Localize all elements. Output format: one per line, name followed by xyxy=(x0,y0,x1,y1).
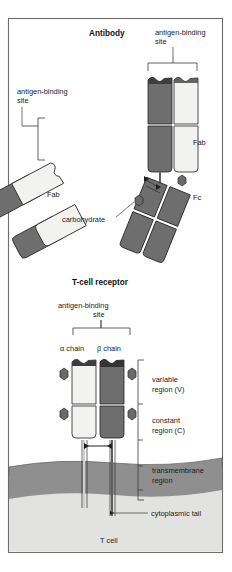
t-cell-label: T cell xyxy=(100,536,118,545)
antigen-binding-site-top-line1: antigen-binding xyxy=(155,28,206,37)
tcr-carbohydrate-beta-c xyxy=(128,408,136,420)
beta-constant-domain xyxy=(100,406,124,438)
antigen-binding-site-left-line2: site xyxy=(17,96,29,105)
tcr-beta-chain xyxy=(100,359,124,438)
constant-region-line1: constant xyxy=(152,416,180,425)
carbohydrate-label: carbohydrate xyxy=(62,215,105,224)
cytoplasmic-tail-label: cytoplasmic tail xyxy=(151,509,201,518)
fab-left-label: Fab xyxy=(47,190,60,199)
antigen-binding-site-left-line1: antigen-binding xyxy=(17,87,68,96)
variable-region-line2: region (V) xyxy=(152,385,184,394)
alpha-variable-domain xyxy=(72,359,96,404)
fab-right-heavy-variable-domain xyxy=(148,77,172,124)
tcr-carbohydrate-beta-v xyxy=(128,368,136,380)
tcr-carbohydrate-alpha-c xyxy=(60,408,68,420)
tcr-title: T-cell receptor xyxy=(72,278,129,287)
constant-region-line2: region (C) xyxy=(152,426,185,435)
figure-canvas: Antibody antigen-binding site Fab antige… xyxy=(0,0,232,572)
transmembrane-region-line2: region xyxy=(152,476,173,485)
alpha-constant-domain xyxy=(72,406,96,438)
fab-right-light-constant-domain xyxy=(174,126,198,172)
antigen-binding-site-tcr-line2: site xyxy=(93,310,105,319)
variable-region-line1: variable xyxy=(152,375,178,384)
fab-right-light-variable-domain xyxy=(174,77,198,124)
antibody-title-text: Antibody xyxy=(89,29,125,38)
beta-chain-label: β chain xyxy=(97,344,121,353)
fc-label: Fc xyxy=(193,193,202,202)
fab-right-label: Fab xyxy=(193,138,206,147)
fab-right-heavy-constant-domain xyxy=(148,126,172,172)
antigen-binding-site-top-line2: site xyxy=(155,37,167,46)
tcr-alpha-chain xyxy=(72,359,96,438)
transmembrane-region-line1: transmembrane xyxy=(152,466,204,475)
antigen-binding-site-tcr-line1: antigen-binding xyxy=(58,301,109,310)
alpha-chain-label: α chain xyxy=(60,344,84,353)
tcr-carbohydrate-alpha-v xyxy=(60,368,68,380)
